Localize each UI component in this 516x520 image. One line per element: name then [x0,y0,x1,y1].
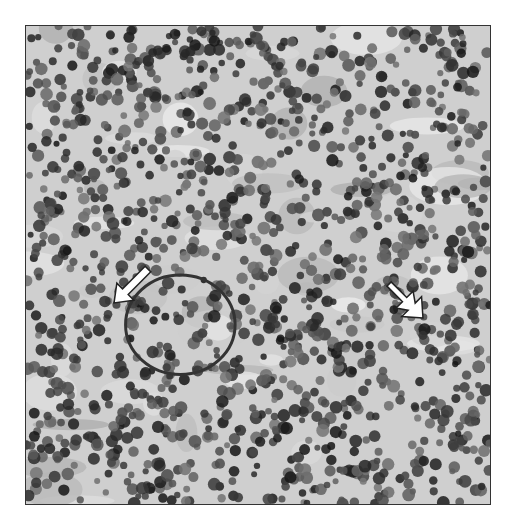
tissue-image [26,26,490,504]
arrow-left-icon [101,256,161,316]
arrow-right-icon [376,271,436,331]
micrograph [25,25,491,505]
